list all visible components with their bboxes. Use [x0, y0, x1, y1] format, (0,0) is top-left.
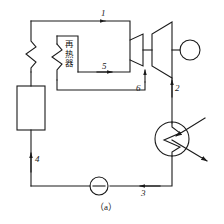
state-point-label-3: 3 [141, 189, 146, 198]
hp-turbine-body [130, 34, 143, 66]
cooling-water-outlet-line [172, 140, 207, 161]
reheater-coil [52, 44, 62, 80]
reheater-label: 再热器 [64, 40, 75, 69]
state-point-label-1: 1 [101, 9, 106, 18]
condensate-line-right [110, 156, 172, 186]
reheat-steam-return-line [57, 80, 145, 90]
figure-caption: （a） [95, 200, 117, 213]
state-point-label-6: 6 [136, 84, 141, 93]
schematic-drawing [0, 0, 224, 224]
main-steam-line-to-hp-turbine [105, 21, 130, 40]
state-point-label-4: 4 [35, 155, 40, 164]
lp-turbine-body [152, 22, 172, 78]
cooling-water-inlet-line [176, 118, 205, 136]
state-point-label-5: 5 [102, 62, 107, 71]
boiler-body [17, 86, 45, 130]
superheater-coil [26, 21, 36, 72]
generator-body [180, 40, 200, 60]
condenser-coil [164, 122, 180, 156]
state-point-label-2: 2 [175, 84, 180, 93]
figure-container: 1 5 6 2 3 4 再热器 （a） [0, 0, 224, 224]
